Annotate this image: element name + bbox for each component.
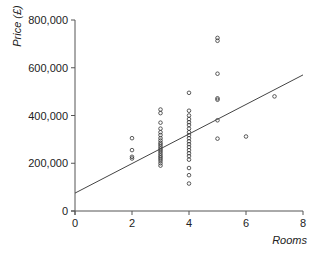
data-point xyxy=(216,72,220,76)
x-tick-label: 6 xyxy=(243,217,249,229)
data-point xyxy=(244,135,248,139)
data-point xyxy=(187,109,191,113)
data-point xyxy=(159,108,163,112)
data-point xyxy=(187,173,191,177)
regression-line-path xyxy=(75,75,303,193)
y-axis-title: Price (£) xyxy=(11,5,23,47)
data-point xyxy=(187,91,191,95)
data-point xyxy=(187,182,191,186)
x-axis-title: Rooms xyxy=(272,234,307,246)
regression-line xyxy=(75,75,303,193)
data-point xyxy=(159,121,163,125)
data-point xyxy=(159,127,163,131)
data-point xyxy=(187,127,191,131)
data-point xyxy=(273,95,277,99)
x-tick-label: 0 xyxy=(72,217,78,229)
y-tick-label: 200,000 xyxy=(28,157,68,169)
y-tick-label: 400,000 xyxy=(28,110,68,122)
x-tick-label: 4 xyxy=(186,217,192,229)
data-point xyxy=(216,137,220,141)
data-point xyxy=(130,136,134,140)
x-tick-label: 2 xyxy=(129,217,135,229)
y-axis: 0200,000400,000600,000800,000 xyxy=(28,14,75,217)
x-tick-label: 8 xyxy=(300,217,306,229)
data-point xyxy=(187,166,191,170)
x-axis: 02468 xyxy=(71,211,306,229)
y-tick-label: 800,000 xyxy=(28,14,68,26)
data-point xyxy=(159,164,163,168)
data-point xyxy=(130,148,134,152)
data-points xyxy=(130,36,276,185)
y-tick-label: 600,000 xyxy=(28,62,68,74)
data-point xyxy=(187,114,191,118)
scatter-chart: 0200,000400,000600,000800,000 02468 Pric… xyxy=(0,0,320,256)
data-point xyxy=(187,158,191,162)
data-point xyxy=(159,111,163,115)
y-tick-label: 0 xyxy=(62,205,68,217)
